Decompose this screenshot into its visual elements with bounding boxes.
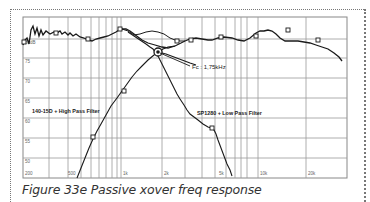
x-tick: 10k <box>260 171 268 176</box>
y-tick: 75 <box>25 59 31 64</box>
highpass-series-label: 140-15D + High Pass Filter <box>32 108 100 114</box>
x-tick: 2k <box>164 171 170 176</box>
fc-label: Fc : 1,75kHz <box>192 64 226 70</box>
lowpass-series-label: SP1280 + Low Pass Filter <box>197 110 263 116</box>
x-tick: 5k <box>219 171 225 176</box>
y-tick: 65 <box>25 99 31 104</box>
x-tick: 500 <box>68 171 76 176</box>
x-tick: 200 <box>25 171 33 176</box>
y-tick: 55 <box>25 139 31 144</box>
crossover-point-dot <box>156 50 160 54</box>
x-tick: 20k <box>308 171 316 176</box>
frequency-response-chart: 80dB 75 70 65 60 55 50 200 500 1k 2k 5k … <box>0 0 370 202</box>
y-tick: 70 <box>25 79 31 84</box>
y-tick: 80dB <box>25 40 36 45</box>
y-tick: 60 <box>25 119 31 124</box>
x-tick: 1k <box>123 171 129 176</box>
figure-caption: Figure 33e Passive xover freq response <box>22 182 261 197</box>
y-tick: 50 <box>25 159 31 164</box>
